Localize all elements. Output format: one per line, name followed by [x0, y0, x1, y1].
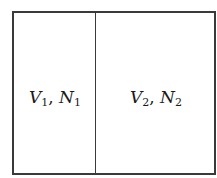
particles-symbol: N [59, 87, 74, 107]
compartment-1-label: V1, N1 [29, 87, 81, 109]
partition-wall [95, 13, 96, 173]
particles-symbol: N [160, 87, 175, 107]
container-box: V1, N1 V2, N2 [12, 11, 216, 175]
volume-symbol: V [130, 87, 142, 107]
particles-index: 1 [74, 96, 81, 109]
separator: , [149, 87, 160, 107]
separator: , [48, 87, 59, 107]
volume-symbol: V [29, 87, 41, 107]
particles-index: 2 [175, 96, 182, 109]
compartment-2-label: V2, N2 [130, 87, 182, 109]
